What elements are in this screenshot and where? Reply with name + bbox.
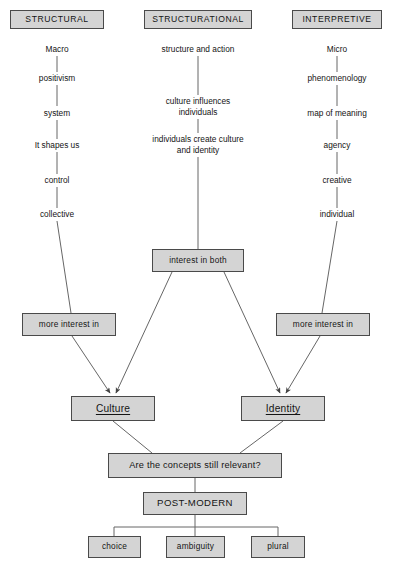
concept-map-diagram: STRUCTURAL STRUCTURATIONAL INTERPRETIVE …: [0, 0, 396, 571]
header-label-interpretive: INTERPRETIVE: [302, 15, 371, 25]
connector-post-modern-to-outcomes: [114, 515, 278, 536]
connector-collective-to-more-interest-left: [57, 221, 71, 313]
connector-more-interest-left-to-culture: [72, 336, 110, 393]
connector-layer: [0, 0, 396, 571]
header-label-structurational: STRUCTURATIONAL: [152, 15, 244, 25]
interpretive-item-phenomenology: phenomenology: [282, 73, 392, 84]
node-label-plural: plural: [267, 542, 289, 551]
connector-identity-to-question: [240, 421, 283, 453]
node-post-modern[interactable]: POST-MODERN: [143, 492, 247, 515]
structural-item-collective: collective: [2, 209, 112, 220]
structural-item-system: system: [2, 108, 112, 119]
structurational-item-structure-and-action: structure and action: [128, 44, 268, 55]
interpretive-item-micro: Micro: [282, 44, 392, 55]
node-label-ambiguity: ambiguity: [177, 542, 214, 551]
node-label-identity: Identity: [266, 403, 300, 414]
structural-item-positivism: positivism: [2, 73, 112, 84]
structurational-item-individuals-create-culture-and-identity: individuals create culture and identity: [118, 134, 278, 155]
connector-culture-to-question: [113, 421, 152, 453]
interpretive-item-agency: agency: [282, 140, 392, 151]
node-outcome-ambiguity[interactable]: ambiguity: [166, 536, 225, 558]
header-box-structural[interactable]: STRUCTURAL: [10, 10, 104, 29]
connector-more-interest-right-to-identity: [286, 336, 320, 393]
header-box-structurational[interactable]: STRUCTURATIONAL: [144, 10, 252, 29]
node-identity[interactable]: Identity: [241, 396, 325, 421]
interpretive-item-creative: creative: [282, 175, 392, 186]
node-interest-in-both[interactable]: interest in both: [152, 249, 244, 272]
node-label-question: Are the concepts still relevant?: [129, 460, 261, 470]
node-label-post-modern: POST-MODERN: [157, 498, 233, 509]
connector-interest-both-to-identity: [224, 272, 280, 393]
node-question-concepts-relevant[interactable]: Are the concepts still relevant?: [108, 453, 282, 478]
structurational-item-culture-influences-individuals: culture influences individuals: [128, 96, 268, 117]
node-outcome-plural[interactable]: plural: [251, 536, 305, 558]
connector-individual-to-more-interest-right: [322, 221, 337, 313]
interpretive-item-individual: individual: [282, 209, 392, 220]
connector-interest-both-to-culture: [116, 272, 172, 393]
node-label-choice: choice: [102, 542, 127, 551]
structural-item-macro: Macro: [2, 44, 112, 55]
header-box-interpretive[interactable]: INTERPRETIVE: [292, 10, 382, 29]
node-label-interest-in-both: interest in both: [169, 256, 227, 265]
node-outcome-choice[interactable]: choice: [88, 536, 141, 558]
node-label-culture: Culture: [96, 403, 130, 414]
structural-item-it-shapes-us: It shapes us: [2, 140, 112, 151]
node-label-more-interest-in-left: more interest in: [39, 320, 99, 329]
structural-item-control: control: [2, 175, 112, 186]
interpretive-item-map-of-meaning: map of meaning: [282, 108, 392, 119]
node-label-more-interest-in-right: more interest in: [293, 320, 353, 329]
node-culture[interactable]: Culture: [71, 396, 155, 421]
node-more-interest-in-right[interactable]: more interest in: [276, 313, 370, 336]
node-more-interest-in-left[interactable]: more interest in: [22, 313, 116, 336]
header-label-structural: STRUCTURAL: [25, 15, 88, 25]
